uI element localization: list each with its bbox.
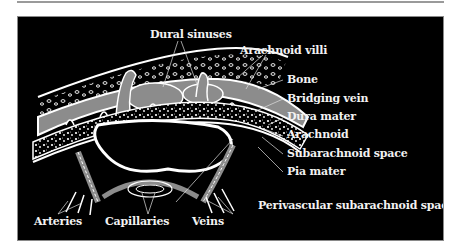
label-arachnoid: Arachnoid [287, 128, 349, 141]
label-arteries: Arteries [34, 215, 82, 228]
label-pia-mater: Pia mater [287, 165, 345, 178]
top-rule [17, 1, 444, 3]
label-bone: Bone [287, 73, 318, 86]
label-subarachnoid-space: Subarachnoid space [287, 147, 408, 160]
label-arachnoid-villi: Arachnoid villi [240, 44, 327, 57]
label-dura-mater: Dura mater [287, 110, 356, 123]
diagram-panel: Dural sinuses Arachnoid villi Bone Bridg… [17, 16, 444, 241]
label-capillaries: Capillaries [105, 215, 169, 228]
label-dural-sinuses: Dural sinuses [150, 28, 232, 41]
label-veins: Veins [192, 215, 224, 228]
capillary-bed [103, 182, 198, 197]
label-bridging-vein: Bridging vein [287, 92, 368, 105]
label-perivascular-space: Perivascular subarachnoid space [258, 199, 444, 212]
